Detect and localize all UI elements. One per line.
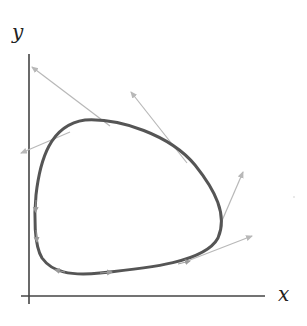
x-axis-label: x bbox=[278, 284, 289, 304]
y-axis-label: y bbox=[12, 22, 23, 42]
limit-cycle-orbit bbox=[35, 120, 222, 274]
vector-arrow bbox=[32, 67, 110, 126]
tangent-vectors bbox=[21, 67, 252, 260]
vector-arrow bbox=[190, 236, 252, 260]
stray-dot bbox=[293, 196, 295, 198]
orbit-direction-marks bbox=[36, 200, 191, 273]
phase-plane-diagram bbox=[0, 0, 307, 326]
vector-arrow bbox=[221, 172, 243, 223]
